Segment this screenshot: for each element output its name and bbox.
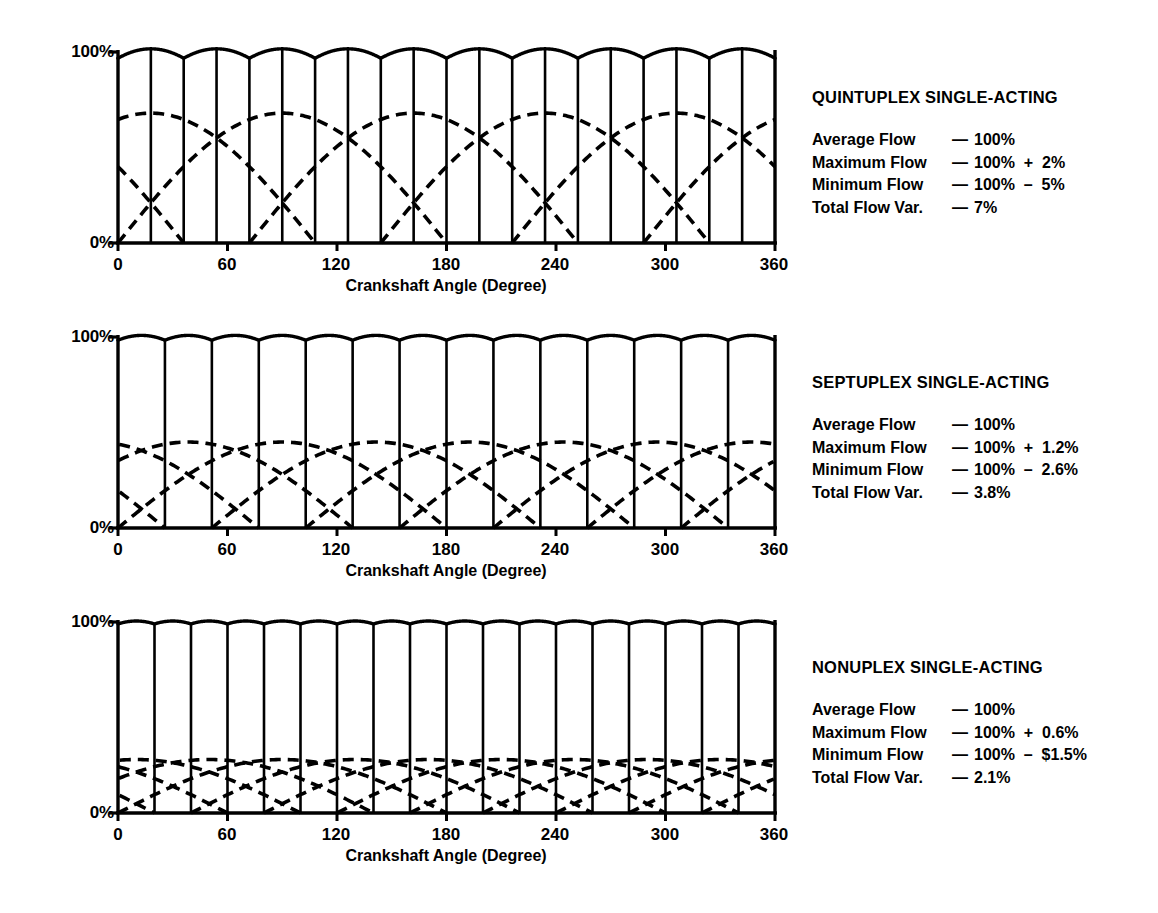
x-tick-3-180: 180 <box>416 825 476 845</box>
y-axis-label-bottom-2: 0% <box>44 518 114 538</box>
legend-dash-maximum-2: — <box>952 437 974 460</box>
legend-dash-average-1: — <box>952 129 974 152</box>
legend-label-average-3: Average Flow <box>812 699 952 722</box>
legend-label-total-1: Total Flow Var. <box>812 197 952 220</box>
legend-row-minimum-2: Minimum Flow — 100% – 2.6% <box>812 459 1142 482</box>
chart-area-nonuplex: 100% 0% 0 60 120 180 240 300 360 Cranksh… <box>0 570 800 870</box>
legend-dash-minimum-2: — <box>952 459 974 482</box>
legend-value-total-3: 2.1% <box>974 767 1010 790</box>
legend-label-minimum-3: Minimum Flow <box>812 744 952 767</box>
legend-label-maximum-1: Maximum Flow <box>812 152 952 175</box>
legend-value-average-3: 100% <box>974 699 1015 722</box>
legend-row-minimum-3: Minimum Flow — 100% – $1.5% <box>812 744 1142 767</box>
legend-dash-minimum-1: — <box>952 174 974 197</box>
legend-row-average-3: Average Flow — 100% <box>812 699 1142 722</box>
x-tick-3-0: 0 <box>88 825 148 845</box>
chart-panel-nonuplex: 100% 0% 0 60 120 180 240 300 360 Cranksh… <box>0 570 1158 870</box>
x-tick-3-60: 60 <box>197 825 257 845</box>
legend-dash-total-1: — <box>952 197 974 220</box>
legend-dash-minimum-3: — <box>952 744 974 767</box>
legend-label-total-2: Total Flow Var. <box>812 482 952 505</box>
x-tick-2-240: 240 <box>525 540 585 560</box>
legend-dash-average-3: — <box>952 699 974 722</box>
legend-quintuplex: QUINTUPLEX SINGLE-ACTING Average Flow — … <box>812 88 1142 220</box>
legend-rows-septuplex: Average Flow — 100% Maximum Flow — 100% … <box>812 414 1142 505</box>
legend-row-minimum-1: Minimum Flow — 100% – 5% <box>812 174 1142 197</box>
x-tick-1-0: 0 <box>88 255 148 275</box>
x-tick-1-300: 300 <box>635 255 695 275</box>
legend-value-total-1: 7% <box>974 197 997 220</box>
x-tick-2-0: 0 <box>88 540 148 560</box>
legend-rows-nonuplex: Average Flow — 100% Maximum Flow — 100% … <box>812 699 1142 790</box>
legend-value-minimum-3: 100% – $1.5% <box>974 744 1087 767</box>
x-tick-2-60: 60 <box>197 540 257 560</box>
legend-title-septuplex: SEPTUPLEX SINGLE-ACTING <box>812 373 1142 392</box>
y-axis-label-bottom-1: 0% <box>44 233 114 253</box>
legend-value-maximum-1: 100% + 2% <box>974 152 1065 175</box>
x-tick-3-240: 240 <box>525 825 585 845</box>
legend-title-nonuplex: NONUPLEX SINGLE-ACTING <box>812 658 1142 677</box>
legend-row-total-3: Total Flow Var. — 2.1% <box>812 767 1142 790</box>
x-tick-2-180: 180 <box>416 540 476 560</box>
x-tick-1-180: 180 <box>416 255 476 275</box>
legend-title-quintuplex: QUINTUPLEX SINGLE-ACTING <box>812 88 1142 107</box>
y-axis-label-top-1: 100% <box>44 42 114 62</box>
legend-value-minimum-1: 100% – 5% <box>974 174 1065 197</box>
x-tick-1-60: 60 <box>197 255 257 275</box>
chart-panel-quintuplex: 100% 0% 0 60 120 180 240 300 360 Cranksh… <box>0 0 1158 300</box>
legend-row-maximum-1: Maximum Flow — 100% + 2% <box>812 152 1142 175</box>
x-tick-2-120: 120 <box>306 540 366 560</box>
legend-label-average-2: Average Flow <box>812 414 952 437</box>
x-tick-2-300: 300 <box>635 540 695 560</box>
legend-label-total-3: Total Flow Var. <box>812 767 952 790</box>
legend-septuplex: SEPTUPLEX SINGLE-ACTING Average Flow — 1… <box>812 373 1142 505</box>
legend-value-average-2: 100% <box>974 414 1015 437</box>
legend-dash-maximum-1: — <box>952 152 974 175</box>
legend-label-average-1: Average Flow <box>812 129 952 152</box>
legend-value-maximum-3: 100% + 0.6% <box>974 722 1079 745</box>
legend-row-maximum-3: Maximum Flow — 100% + 0.6% <box>812 722 1142 745</box>
chart-area-septuplex: 100% 0% 0 60 120 180 240 300 360 Cranksh… <box>0 285 800 585</box>
legend-row-total-1: Total Flow Var. — 7% <box>812 197 1142 220</box>
x-tick-1-240: 240 <box>525 255 585 275</box>
legend-label-minimum-2: Minimum Flow <box>812 459 952 482</box>
x-tick-1-120: 120 <box>306 255 366 275</box>
x-tick-2-360: 360 <box>744 540 804 560</box>
legend-nonuplex: NONUPLEX SINGLE-ACTING Average Flow — 10… <box>812 658 1142 790</box>
y-axis-label-top-3: 100% <box>44 612 114 632</box>
legend-dash-total-3: — <box>952 767 974 790</box>
legend-label-minimum-1: Minimum Flow <box>812 174 952 197</box>
x-tick-1-360: 360 <box>744 255 804 275</box>
x-tick-3-360: 360 <box>744 825 804 845</box>
chart-area-quintuplex: 100% 0% 0 60 120 180 240 300 360 Cranksh… <box>0 0 800 300</box>
legend-rows-quintuplex: Average Flow — 100% Maximum Flow — 100% … <box>812 129 1142 220</box>
legend-row-average-1: Average Flow — 100% <box>812 129 1142 152</box>
chart-panel-septuplex: 100% 0% 0 60 120 180 240 300 360 Cranksh… <box>0 285 1158 585</box>
legend-dash-average-2: — <box>952 414 974 437</box>
legend-label-maximum-3: Maximum Flow <box>812 722 952 745</box>
y-axis-label-top-2: 100% <box>44 327 114 347</box>
figure-root: 100% 0% 0 60 120 180 240 300 360 Cranksh… <box>0 0 1158 913</box>
legend-dash-maximum-3: — <box>952 722 974 745</box>
legend-row-average-2: Average Flow — 100% <box>812 414 1142 437</box>
x-tick-3-120: 120 <box>306 825 366 845</box>
y-axis-label-bottom-3: 0% <box>44 803 114 823</box>
legend-value-average-1: 100% <box>974 129 1015 152</box>
legend-dash-total-2: — <box>952 482 974 505</box>
legend-value-total-2: 3.8% <box>974 482 1010 505</box>
legend-label-maximum-2: Maximum Flow <box>812 437 952 460</box>
x-axis-title-3: Crankshaft Angle (Degree) <box>246 847 646 865</box>
x-tick-3-300: 300 <box>635 825 695 845</box>
legend-row-maximum-2: Maximum Flow — 100% + 1.2% <box>812 437 1142 460</box>
legend-value-minimum-2: 100% – 2.6% <box>974 459 1078 482</box>
legend-value-maximum-2: 100% + 1.2% <box>974 437 1079 460</box>
legend-row-total-2: Total Flow Var. — 3.8% <box>812 482 1142 505</box>
